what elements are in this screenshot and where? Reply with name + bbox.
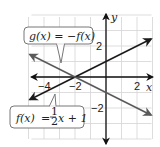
y-tick-label: 2 bbox=[96, 40, 102, 52]
y-tick-label: −2 bbox=[91, 102, 104, 114]
chart: −4−222−2 y x g(x) = −f(x) f(x) = 1 2 x +… bbox=[0, 0, 160, 147]
y-axis-label: y bbox=[110, 11, 118, 24]
callout-g-text: g(x) = −f(x) bbox=[29, 30, 95, 43]
callout-f-rest: x + 1 bbox=[58, 112, 87, 125]
callout-f: f(x) = 1 2 x + 1 bbox=[10, 94, 87, 128]
x-tick-label: 2 bbox=[134, 80, 140, 92]
callout-f-lhs: f(x) bbox=[15, 112, 35, 125]
x-tick-label: −4 bbox=[38, 80, 51, 92]
callout-f-eq: = bbox=[41, 112, 50, 125]
callout-f-den: 2 bbox=[51, 115, 58, 128]
x-tick-label: −2 bbox=[69, 80, 82, 92]
x-axis-label: x bbox=[146, 81, 153, 94]
